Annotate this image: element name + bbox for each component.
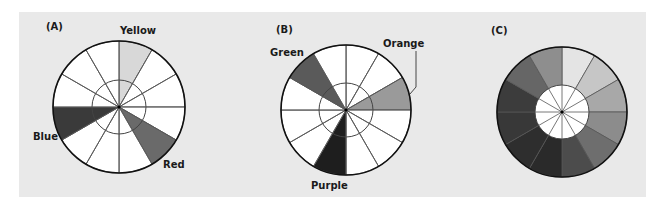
color-wheel-c — [497, 47, 627, 177]
panel-label-a: (A) — [46, 21, 63, 33]
callout-orange: Orange — [383, 38, 424, 50]
color-wheel-b — [281, 45, 416, 175]
color-wheel-figure: (A)YellowRedBlue(B)GreenOrangePurple(C) — [0, 0, 659, 208]
center-dot — [117, 105, 120, 108]
color-wheel-a — [53, 41, 185, 173]
callout-yellow: Yellow — [120, 25, 156, 37]
panel-label-b: (B) — [276, 24, 293, 36]
callout-purple: Purple — [311, 180, 348, 192]
panel-label-c: (C) — [491, 25, 507, 37]
callout-green: Green — [270, 47, 304, 59]
leader-line — [410, 51, 416, 94]
callout-red: Red — [163, 159, 185, 171]
callout-blue: Blue — [33, 131, 58, 143]
center-dot — [560, 110, 563, 113]
wheels-canvas — [0, 0, 659, 208]
center-dot — [344, 108, 347, 111]
